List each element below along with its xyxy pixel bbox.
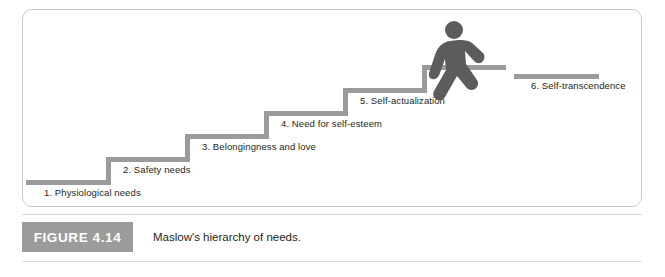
step-tread-5 xyxy=(343,88,427,93)
figure-caption-bar: FIGURE 4.14 Maslow's hierarchy of needs. xyxy=(22,222,642,252)
step-tread-2 xyxy=(106,157,190,162)
figure-number-tag: FIGURE 4.14 xyxy=(22,222,133,252)
step-tread-7 xyxy=(514,74,599,79)
step-label-2: 2. Safety needs xyxy=(123,164,191,175)
step-tread-3 xyxy=(185,134,269,139)
step-label-1: 1. Physiological needs xyxy=(44,187,141,198)
step-tread-1 xyxy=(26,180,110,185)
step-label-3: 3. Belongingness and love xyxy=(202,141,316,152)
staircase-diagram: 1. Physiological needs 2. Safety needs 3… xyxy=(22,9,642,207)
caption-rule-bottom xyxy=(22,261,642,262)
step-label-6: 6. Self-transcendence xyxy=(531,80,626,91)
step-label-4: 4. Need for self-esteem xyxy=(281,118,382,129)
walking-person-icon xyxy=(422,21,488,107)
figure-caption-text: Maslow's hierarchy of needs. xyxy=(153,222,301,252)
step-tread-4 xyxy=(264,111,348,116)
figure-container: 1. Physiological needs 2. Safety needs 3… xyxy=(0,0,665,277)
caption-rule-top xyxy=(22,214,642,215)
